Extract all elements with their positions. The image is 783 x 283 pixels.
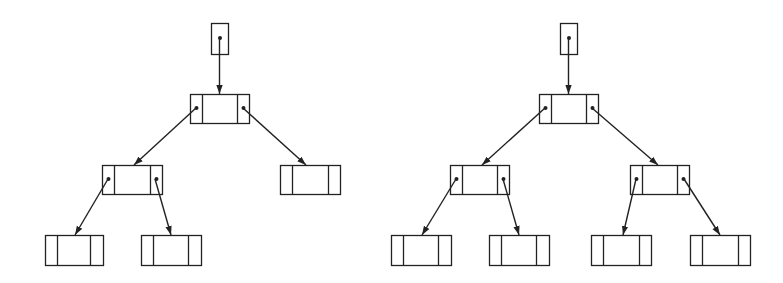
tree-left — [46, 24, 341, 266]
tree-node-l — [103, 166, 163, 195]
node-box — [46, 236, 104, 266]
node-box — [691, 236, 751, 266]
arrow-l-to-ll — [422, 179, 456, 235]
node-box — [540, 95, 599, 124]
arrow-root-to-l — [482, 108, 545, 165]
node-box — [490, 236, 550, 266]
tree-node-ll — [392, 236, 452, 266]
arrow-r-to-rl — [623, 179, 636, 235]
tree-node-root — [540, 95, 599, 124]
tree-node-root — [191, 95, 250, 124]
binary-trees-diagram — [0, 0, 783, 283]
tree-node-lr — [142, 236, 202, 266]
arrow-l-to-ll — [75, 179, 108, 235]
arrow-root-to-r — [243, 108, 306, 165]
node-box — [142, 236, 202, 266]
tree-node-r — [631, 166, 690, 195]
node-box — [103, 166, 163, 195]
tree-node-lr — [490, 236, 550, 266]
node-box — [281, 166, 341, 195]
tree-node-ll — [46, 236, 104, 266]
tree-right — [392, 24, 751, 266]
arrow-root-to-r — [592, 108, 658, 165]
diagram-canvas — [0, 0, 783, 283]
arrow-root-to-l — [134, 108, 196, 165]
tree-node-rr — [691, 236, 751, 266]
node-box — [191, 95, 250, 124]
node-box — [451, 166, 510, 195]
arrow-r-to-rr — [684, 179, 720, 235]
node-box — [392, 236, 452, 266]
arrow-l-to-lr — [503, 179, 519, 235]
tree-node-r — [281, 166, 341, 195]
node-box — [631, 166, 690, 195]
node-box — [592, 236, 652, 266]
tree-node-rl — [592, 236, 652, 266]
tree-node-l — [451, 166, 510, 195]
